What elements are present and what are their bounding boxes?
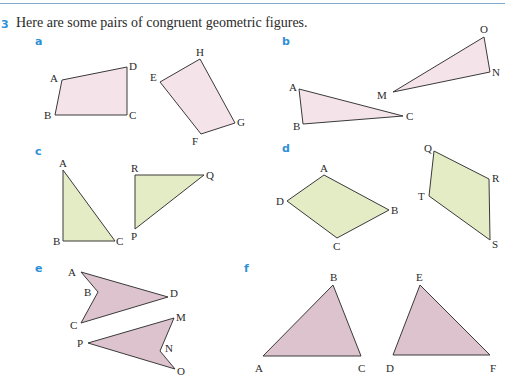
vertex-label: P	[77, 337, 83, 349]
part-f-figures: A B C D E F	[255, 271, 496, 374]
vertex-label: G	[237, 116, 245, 128]
vertex-label: Q	[206, 169, 214, 181]
vertex-label: P	[131, 230, 137, 242]
vertex-label: T	[418, 190, 425, 202]
triangle-MNO	[393, 37, 490, 92]
vertex-label: B	[53, 235, 60, 247]
vertex-label: C	[70, 319, 77, 331]
vertex-label: Q	[424, 142, 432, 154]
vertex-label: C	[333, 240, 340, 252]
vertex-label: R	[492, 172, 500, 184]
vertex-label: F	[490, 362, 496, 374]
triangle-ABC	[263, 285, 361, 356]
figures-canvas: A B C D E F G H A B C M N O A B C P Q R …	[0, 0, 513, 376]
vertex-label: B	[44, 109, 51, 121]
vertex-label: S	[492, 238, 498, 250]
vertex-label: F	[192, 135, 198, 147]
quadrilateral-ABCD	[287, 175, 389, 238]
vertex-label: E	[416, 271, 423, 283]
vertex-label: C	[116, 235, 123, 247]
vertex-label: O	[480, 23, 488, 35]
vertex-label: B	[391, 204, 398, 216]
vertex-label: A	[50, 72, 58, 84]
vertex-label: O	[177, 365, 185, 376]
triangle-ABC	[299, 89, 403, 124]
vertex-label: A	[255, 362, 263, 374]
quadrilateral-ABCD	[55, 67, 127, 115]
vertex-label: N	[165, 342, 173, 354]
vertex-label: C	[358, 362, 365, 374]
arrowhead-MNOP	[88, 318, 175, 369]
triangle-ABC	[63, 170, 115, 241]
part-a-figures: A B C D E F G H	[44, 46, 245, 147]
vertex-label: N	[492, 66, 500, 78]
vertex-label: B	[293, 120, 300, 132]
vertex-label: H	[196, 46, 204, 58]
arrowhead-ABCD	[81, 272, 168, 323]
vertex-label: D	[386, 362, 394, 374]
quadrilateral-EFGH	[160, 59, 235, 134]
vertex-label: A	[59, 157, 67, 169]
vertex-label: B	[84, 286, 91, 298]
vertex-label: D	[129, 60, 137, 72]
triangle-PQR	[135, 175, 204, 229]
quadrilateral-QRST	[429, 151, 490, 240]
vertex-label: A	[320, 162, 328, 174]
part-d-figures: A B C D Q R S T	[276, 142, 500, 252]
part-b-figures: A B C M N O	[289, 23, 500, 132]
vertex-label: B	[330, 271, 337, 283]
triangle-DEF	[393, 285, 490, 355]
part-e-figures: A B C D M N O P	[68, 266, 186, 376]
vertex-label: M	[377, 89, 387, 101]
vertex-label: A	[289, 81, 297, 93]
vertex-label: E	[150, 71, 157, 83]
vertex-label: C	[129, 109, 136, 121]
vertex-label: D	[276, 195, 284, 207]
vertex-label: A	[68, 266, 76, 278]
vertex-label: D	[170, 287, 178, 299]
vertex-label: R	[131, 162, 139, 174]
vertex-label: C	[406, 110, 413, 122]
vertex-label: M	[176, 311, 186, 323]
part-c-figures: A B C P Q R	[53, 157, 214, 247]
